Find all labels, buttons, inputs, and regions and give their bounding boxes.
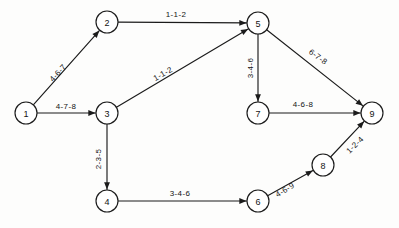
edge-label-1-to-2: 4-6-7 [48, 62, 68, 83]
node-6[interactable]: 6 [247, 190, 269, 212]
node-1[interactable]: 1 [15, 102, 37, 124]
edge-label-3-to-4: 2-3-5 [94, 149, 103, 170]
node-3[interactable]: 3 [96, 102, 118, 124]
node-8[interactable]: 8 [312, 154, 334, 176]
node-7[interactable]: 7 [247, 102, 269, 124]
node-label-3: 3 [104, 109, 109, 119]
node-5[interactable]: 5 [247, 12, 269, 34]
arrowhead-3-to-5 [240, 29, 248, 35]
node-label-8: 8 [320, 161, 325, 171]
node-label-5: 5 [255, 19, 260, 29]
arrowhead-6-to-8 [305, 171, 313, 177]
activity-network-diagram: 4-6-74-7-81-1-21-1-22-3-53-4-66-7-84-6-8… [0, 0, 399, 228]
edge-label-7-to-9: 4-6-8 [293, 100, 314, 109]
node-label-6: 6 [255, 197, 260, 207]
edge-label-5-to-7: 3-4-6 [246, 58, 255, 79]
edge-label-1-to-3: 4-7-8 [56, 102, 77, 111]
node-label-9: 9 [369, 109, 374, 119]
node-label-1: 1 [23, 109, 28, 119]
node-label-4: 4 [104, 197, 109, 207]
edge-3-to-5 [116, 29, 248, 107]
edge-label-8-to-9: 1-2-4 [345, 135, 366, 156]
arrowhead-7-to-9 [353, 110, 360, 116]
edge-label-6-to-8: 4-6-9 [274, 181, 296, 199]
node-label-7: 7 [255, 109, 260, 119]
edge-label-2-to-5: 1-1-2 [166, 10, 187, 19]
edge-label-4-to-6: 3-4-6 [170, 189, 191, 198]
node-9[interactable]: 9 [361, 102, 383, 124]
arrowhead-1-to-3 [88, 110, 95, 116]
nodes-layer: 123456789 [15, 11, 383, 212]
node-2[interactable]: 2 [96, 11, 118, 33]
node-label-2: 2 [104, 18, 109, 28]
edge-5-to-9 [267, 30, 363, 106]
arrowhead-4-to-6 [239, 198, 246, 204]
arrowhead-3-to-4 [104, 182, 110, 189]
arrowhead-2-to-5 [239, 20, 246, 26]
arrowhead-5-to-7 [255, 94, 261, 101]
edge-2-to-5 [118, 22, 247, 23]
graph-canvas: 4-6-74-7-81-1-21-1-22-3-53-4-66-7-84-6-8… [0, 0, 399, 228]
node-4[interactable]: 4 [96, 190, 118, 212]
